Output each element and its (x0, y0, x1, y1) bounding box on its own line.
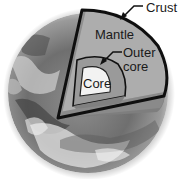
crust-leader-line (124, 6, 143, 16)
crust-label: Crust (146, 0, 177, 15)
core-label: Core (83, 76, 111, 91)
mantle-label: Mantle (95, 27, 134, 42)
outer-core-label-line1: Outer (123, 45, 156, 60)
outer-core-label-line2: core (123, 59, 148, 74)
earth-layers-diagram: Crust Mantle Outer core Core (0, 0, 182, 179)
